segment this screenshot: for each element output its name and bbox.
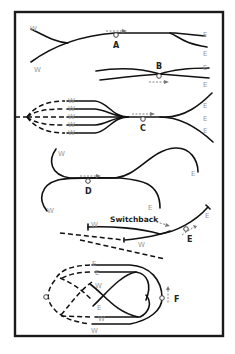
dir-label: W: [47, 207, 54, 215]
dir-label: E: [203, 102, 207, 110]
panel-label-b: B: [156, 62, 162, 71]
dir-label: W: [34, 66, 41, 74]
panel-a: A W W E E: [30, 25, 207, 74]
dir-label: W: [30, 25, 37, 33]
dir-label: W: [68, 113, 75, 121]
signal-d-icon: [86, 179, 91, 184]
dir-label: E: [203, 50, 207, 58]
dash-f-cross-upper: [60, 278, 92, 300]
dash-f-upper-inner: [60, 272, 90, 279]
panel-d: D W W E E: [42, 148, 198, 215]
panel-label-e: E: [187, 235, 192, 244]
signal-f-right-icon: [160, 296, 165, 301]
dir-label: E: [97, 304, 101, 312]
dir-label: E: [203, 81, 207, 89]
dir-label: W: [68, 97, 75, 105]
dir-label: E: [203, 31, 207, 39]
switchback-label: Switchback: [110, 215, 159, 224]
dash-e-2: [80, 240, 165, 259]
arrowhead-c: [150, 112, 155, 116]
dir-label: W: [68, 121, 75, 129]
track-d-lower: [42, 178, 160, 211]
signal-e-icon: [184, 227, 189, 232]
panel-label-d: D: [85, 187, 92, 196]
arrowhead-f: [166, 286, 170, 290]
signal-a-icon: [114, 33, 119, 38]
dir-label: E: [205, 212, 209, 220]
panel-c: C W W W W W E E E: [15, 93, 213, 142]
dash-f-outer-loop: [48, 265, 90, 324]
track-b-upper: [96, 68, 209, 74]
dir-label: E: [203, 115, 207, 123]
dir-label: E: [148, 204, 152, 212]
panel-label-f: F: [174, 295, 179, 304]
switchback-pointer-head: [165, 223, 170, 227]
dir-label: E: [95, 269, 99, 277]
dir-label: W: [68, 129, 75, 137]
signal-c-icon: [141, 117, 146, 122]
dir-label: E: [191, 170, 195, 178]
track-e-switchback-lead: [125, 231, 170, 240]
track-c-main: [67, 93, 212, 117]
track-d-upper: [52, 148, 198, 178]
track-b-lower: [100, 74, 209, 80]
dir-label: W: [68, 105, 75, 113]
dir-label: W: [58, 150, 65, 158]
dir-label: W: [91, 327, 98, 335]
panel-f: F E E W E W W: [44, 260, 180, 335]
dir-label: W: [95, 282, 102, 290]
dir-label: E: [203, 127, 207, 135]
signal-f-left-icon: [44, 295, 49, 300]
dir-label: W: [98, 315, 105, 323]
panel-label-a: A: [113, 41, 120, 50]
dir-label: W: [91, 221, 98, 229]
panel-e: Switchback E W W E: [60, 205, 210, 259]
dir-label: W: [138, 241, 145, 249]
dir-label: E: [92, 260, 96, 268]
signal-b-icon: [157, 74, 162, 79]
track-layout-diagram: A W W E E B E E C W W W W W: [0, 0, 235, 354]
panel-b: B E E: [96, 62, 209, 89]
track-c-2: [67, 109, 128, 117]
dir-label: E: [203, 64, 207, 72]
arrowhead-b: [164, 80, 169, 84]
track-f-lower-inner: [95, 295, 149, 317]
dash-e-1: [60, 233, 124, 240]
panel-label-c: C: [140, 124, 146, 133]
